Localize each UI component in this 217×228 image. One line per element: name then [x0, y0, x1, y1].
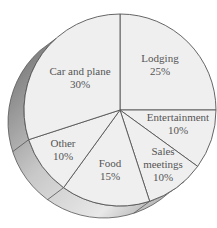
slice-label-food: Food15% [99, 157, 122, 182]
pie-chart: Lodging25%Entertainment10%Salesmeetings1… [0, 0, 217, 228]
slice-label-other: Other10% [50, 137, 75, 162]
